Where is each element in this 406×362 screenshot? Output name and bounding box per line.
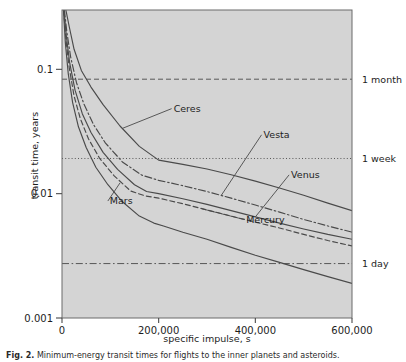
x-axis-label: specific impulse, s (62, 333, 352, 344)
series-annotation-venus: Venus (291, 169, 320, 180)
y-tick-label: 0.001 (24, 313, 53, 324)
series-annotation-mercury: Mercury (246, 214, 285, 225)
y-tick-label: 0.1 (37, 64, 53, 75)
figure-caption: Fig. 2. Minimum-energy transit times for… (6, 350, 404, 361)
figure-caption-label: Fig. 2. (6, 351, 34, 360)
reference-label-1-month: 1 month (362, 74, 402, 85)
series-annotation-mars: Mars (110, 195, 133, 206)
reference-label-1-week: 1 week (362, 153, 397, 164)
y-axis-label: transit time, years (29, 86, 40, 226)
transit-time-chart: 1 month1 week1 day0.0010.010.10200,00040… (0, 0, 406, 362)
series-annotation-ceres: Ceres (174, 103, 201, 114)
series-annotation-vesta: Vesta (264, 129, 290, 140)
figure-container: 1 month1 week1 day0.0010.010.10200,00040… (0, 0, 406, 362)
reference-label-1-day: 1 day (362, 258, 389, 269)
figure-caption-text: Minimum-energy transit times for flights… (34, 351, 339, 360)
